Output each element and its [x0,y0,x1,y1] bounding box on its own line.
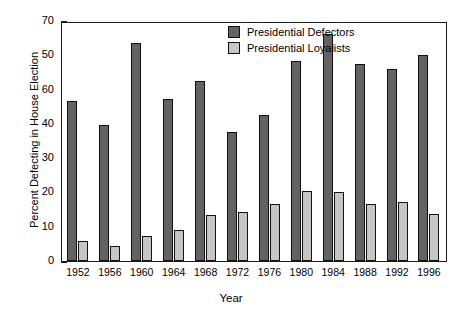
y-tick-label: 20 [0,185,54,197]
legend-item-defectors: Presidential Defectors [228,26,355,38]
y-tick-label: 10 [0,220,54,232]
bar [387,69,397,261]
bar [131,43,141,261]
bar-group [323,23,344,261]
bar-group [387,23,408,261]
bar [429,214,439,261]
bar [398,202,408,261]
y-tick-label: 50 [0,48,54,60]
x-tick-label: 1956 [98,266,121,278]
x-tick-label: 1996 [417,266,440,278]
bar [366,204,376,261]
bar-group [163,23,184,261]
bar [302,191,312,261]
x-tick-label: 1988 [353,266,376,278]
legend-item-loyalists: Presidential Loyalists [228,42,355,54]
bar [355,64,365,261]
x-tick-label: 1952 [66,266,89,278]
x-tick-label: 1992 [385,266,408,278]
bar [110,246,120,261]
bar [323,34,333,261]
bar [291,61,301,261]
x-axis-ticks: 1952195619601964196819721976198019841988… [62,266,445,278]
x-tick-label: 1980 [290,266,313,278]
bar-group [195,23,216,261]
x-tick-label: 1968 [194,266,217,278]
legend: Presidential Defectors Presidential Loya… [228,26,355,58]
x-tick-label: 1960 [130,266,153,278]
bar-group [259,23,280,261]
bar [238,212,248,261]
bar [227,132,237,261]
y-tick-label: 70 [0,14,54,26]
y-tick-label: 0 [0,254,54,266]
bar [67,101,77,261]
bar [334,192,344,261]
bar-group [355,23,376,261]
bar [163,99,173,261]
x-tick-label: 1976 [258,266,281,278]
bar-series-container [62,23,445,261]
y-tick-label: 30 [0,151,54,163]
y-tick-label: 40 [0,117,54,129]
bar-group [99,23,120,261]
bar [270,204,280,261]
bar [142,236,152,261]
bar-group [418,23,439,261]
bar [99,125,109,261]
x-axis-title: Year [0,292,462,304]
bar-group [131,23,152,261]
legend-swatch-defectors-icon [228,26,240,38]
legend-label-loyalists: Presidential Loyalists [247,42,350,54]
y-tick-label: 60 [0,83,54,95]
x-tick-label: 1984 [322,266,345,278]
x-tick-label: 1972 [226,266,249,278]
legend-label-defectors: Presidential Defectors [247,26,355,38]
bar-chart: Percent Defecting in House Election 7050… [0,0,462,317]
bar [195,81,205,261]
x-tick-label: 1964 [162,266,185,278]
bar-group [67,23,88,261]
bar [78,241,88,261]
legend-swatch-loyalists-icon [228,42,240,54]
bar-group [227,23,248,261]
bar [206,215,216,261]
bar [418,55,428,261]
bar [259,115,269,261]
bar-group [291,23,312,261]
bar [174,230,184,261]
